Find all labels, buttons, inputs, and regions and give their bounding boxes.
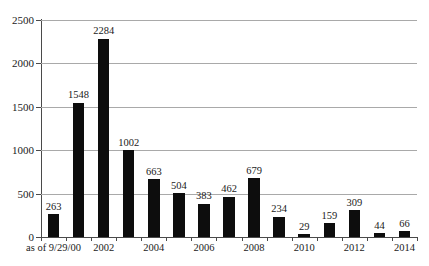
y-axis-tick-label: 0: [29, 232, 35, 243]
bar-slot: 663: [148, 20, 160, 237]
y-axis-tick-label: 2500: [12, 15, 34, 26]
bar-chart: 05001000150020002500 2631548228410026635…: [0, 0, 429, 266]
bar-slot: 2284: [98, 20, 110, 237]
x-axis-tick: [216, 237, 217, 241]
x-axis-tick: [166, 237, 167, 241]
bar[interactable]: [324, 223, 336, 237]
x-axis-tick-label: 2004: [143, 243, 164, 254]
x-axis-tick: [91, 237, 92, 241]
bar-value-label: 309: [346, 198, 362, 209]
bar-value-label: 1002: [118, 138, 139, 149]
bar-slot: 29: [298, 20, 310, 237]
y-axis-tick-label: 1000: [12, 145, 34, 156]
bar-value-label: 1548: [68, 90, 89, 101]
x-axis-tick: [267, 237, 268, 241]
x-axis-tick-label: 2008: [244, 243, 265, 254]
bar[interactable]: [123, 150, 135, 237]
bar-value-label: 66: [399, 219, 410, 230]
bar-value-label: 263: [46, 202, 62, 213]
bar-slot: 679: [248, 20, 260, 237]
x-axis-tick: [242, 237, 243, 241]
bar-slot: 263: [48, 20, 60, 237]
bar[interactable]: [298, 234, 310, 237]
plot-area: 05001000150020002500 2631548228410026635…: [41, 20, 417, 237]
bar-slot: 504: [173, 20, 185, 237]
x-axis-tick-label: 2010: [294, 243, 315, 254]
bar-value-label: 44: [374, 221, 385, 232]
bar-value-label: 29: [299, 222, 310, 233]
x-axis-tick: [392, 237, 393, 241]
bar-slot: 1548: [73, 20, 85, 237]
x-axis-tick-label: 2014: [394, 243, 415, 254]
bar-value-label: 383: [196, 191, 212, 202]
bar-slot: 66: [399, 20, 411, 237]
x-axis-tick: [191, 237, 192, 241]
bar[interactable]: [399, 231, 411, 237]
bar-value-label: 159: [321, 211, 337, 222]
bar-slot: 309: [349, 20, 361, 237]
x-axis-tick: [292, 237, 293, 241]
x-axis-tick: [66, 237, 67, 241]
bar[interactable]: [374, 233, 386, 237]
x-axis-tick-label: 2006: [193, 243, 214, 254]
x-axis-tick: [417, 237, 418, 241]
x-axis-tick-label: 2002: [93, 243, 114, 254]
x-axis-tick: [41, 237, 42, 241]
bar[interactable]: [198, 204, 210, 237]
bar-slot: 234: [273, 20, 285, 237]
bars-group: 2631548228410026635043834626792342915930…: [41, 20, 417, 237]
bar-slot: 1002: [123, 20, 135, 237]
bar-slot: 44: [374, 20, 386, 237]
bar-slot: 159: [324, 20, 336, 237]
x-axis-tick: [317, 237, 318, 241]
bar-slot: 462: [223, 20, 235, 237]
x-axis-tick: [342, 237, 343, 241]
x-axis-baseline: [41, 237, 417, 238]
y-axis-tick-label: 500: [18, 188, 35, 199]
y-axis-tick-label: 2000: [12, 58, 34, 69]
bar[interactable]: [223, 197, 235, 237]
y-axis-tick-label: 1500: [12, 101, 34, 112]
bar-value-label: 504: [171, 181, 187, 192]
x-axis-tick: [141, 237, 142, 241]
bar-value-label: 2284: [93, 26, 114, 37]
bar[interactable]: [98, 39, 110, 237]
bar[interactable]: [273, 217, 285, 237]
bar[interactable]: [349, 210, 361, 237]
bar-value-label: 663: [146, 167, 162, 178]
bar-value-label: 462: [221, 184, 237, 195]
x-axis-tick: [367, 237, 368, 241]
bar-value-label: 679: [246, 166, 262, 177]
bar[interactable]: [48, 214, 60, 237]
bar-value-label: 234: [271, 204, 287, 215]
bar-slot: 383: [198, 20, 210, 237]
bar[interactable]: [148, 179, 160, 237]
x-axis-tick: [116, 237, 117, 241]
bar[interactable]: [248, 178, 260, 237]
x-axis-tick-label: as of 9/29/00: [26, 243, 81, 254]
bar[interactable]: [73, 103, 85, 237]
x-axis-tick-label: 2012: [344, 243, 365, 254]
bar[interactable]: [173, 193, 185, 237]
